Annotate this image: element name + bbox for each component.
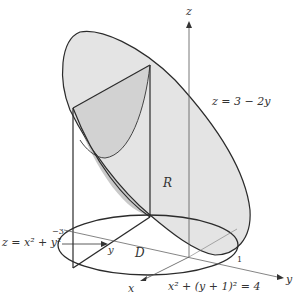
solid-region-diagram: z y x −3 1 z = 3 − 2y z = x² + y² R D y … xyxy=(0,0,293,297)
x-axis-label: x xyxy=(128,282,135,295)
x-axis-arrow xyxy=(140,276,147,281)
base-radius xyxy=(73,217,150,268)
circle-equation-label: x² + (y + 1)² = 4 xyxy=(168,280,260,293)
region-R-label: R xyxy=(162,176,172,190)
y-mid-label: y xyxy=(107,244,114,255)
region-D-label: D xyxy=(134,246,145,260)
y-tick-1: 1 xyxy=(237,255,242,264)
plane-label: z = 3 − 2y xyxy=(211,95,271,108)
y-axis xyxy=(64,230,282,278)
x-axis xyxy=(143,257,189,280)
y-tick-neg3: −3 xyxy=(52,227,64,236)
y-axis-label: y xyxy=(285,273,293,286)
paraboloid-label: z = x² + y² xyxy=(1,236,61,249)
y-axis-arrow xyxy=(277,274,284,280)
z-axis-arrow xyxy=(186,21,192,28)
z-axis-label: z xyxy=(185,5,192,18)
